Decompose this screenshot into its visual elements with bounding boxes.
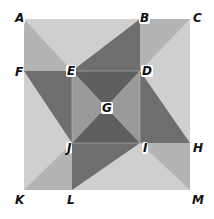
label-M: M — [191, 194, 205, 206]
label-I: I — [142, 142, 148, 154]
label-D: D — [141, 65, 153, 77]
label-B: B — [139, 12, 150, 24]
label-K: K — [14, 194, 25, 206]
label-F: F — [14, 66, 24, 78]
label-L: L — [66, 194, 76, 206]
label-C: C — [192, 12, 203, 24]
label-J: J — [66, 142, 72, 154]
label-E: E — [66, 65, 76, 77]
label-H: H — [192, 142, 204, 154]
label-A: A — [14, 12, 25, 24]
label-G: G — [101, 102, 113, 114]
